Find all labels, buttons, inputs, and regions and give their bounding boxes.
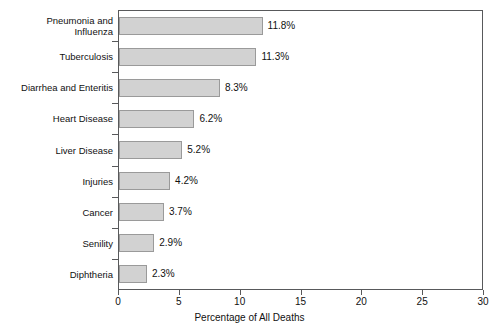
y-axis-tick: [112, 228, 118, 229]
y-axis-category-label: Diarrhea and Enteritis: [1, 82, 113, 93]
bar-value-label: 2.3%: [152, 265, 175, 283]
bar-chart: Pneumonia and InfluenzaTuberculosisDiarr…: [0, 0, 499, 331]
x-axis-tick: [422, 290, 423, 295]
y-axis-category-labels: Pneumonia and InfluenzaTuberculosisDiarr…: [0, 10, 113, 290]
bar: [119, 110, 194, 128]
y-axis-tick: [112, 103, 118, 104]
x-axis-tick-label: 10: [220, 296, 260, 307]
bar-series: 11.8%11.3%8.3%6.2%5.2%4.2%3.7%2.9%2.3%: [119, 11, 482, 289]
x-axis-tick: [179, 290, 180, 295]
y-axis-tick: [112, 166, 118, 167]
y-axis-tick: [112, 41, 118, 42]
x-axis-tick-label: 30: [463, 296, 499, 307]
bar: [119, 79, 220, 97]
x-axis-ticks: 051015202530: [0, 290, 499, 298]
bar-value-label: 8.3%: [225, 79, 248, 97]
bar: [119, 265, 147, 283]
bar: [119, 48, 256, 66]
y-axis-category-label: Liver Disease: [1, 145, 113, 156]
bar-value-label: 2.9%: [159, 234, 182, 252]
y-axis-tick: [112, 134, 118, 135]
y-axis-category-label: Pneumonia and Influenza: [1, 15, 113, 37]
bar: [119, 172, 170, 190]
y-axis-category-label: Diphtheria: [1, 269, 113, 280]
y-axis-tick: [112, 72, 118, 73]
x-axis-tick-label: 20: [341, 296, 381, 307]
x-axis-tick-label: 25: [402, 296, 442, 307]
bar-value-label: 4.2%: [175, 172, 198, 190]
bar: [119, 203, 164, 221]
bar-value-label: 3.7%: [169, 203, 192, 221]
y-axis-category-label: Cancer: [1, 207, 113, 218]
x-axis-tick: [483, 290, 484, 295]
bar: [119, 234, 154, 252]
x-axis-tick-label: 15: [281, 296, 321, 307]
bar-value-label: 5.2%: [187, 141, 210, 159]
y-axis-tick: [112, 259, 118, 260]
y-axis-category-label: Injuries: [1, 176, 113, 187]
bar: [119, 17, 263, 35]
chart-title: [0, 0, 499, 4]
x-axis-tick-label: 0: [98, 296, 138, 307]
bar-value-label: 11.3%: [261, 48, 289, 66]
y-axis-category-label: Heart Disease: [1, 113, 113, 124]
y-axis-category-label: Senility: [1, 238, 113, 249]
bar-value-label: 6.2%: [199, 110, 222, 128]
x-axis-tick-label: 5: [159, 296, 199, 307]
y-axis-category-label: Tuberculosis: [1, 51, 113, 62]
bar-value-label: 11.8%: [268, 17, 296, 35]
x-axis-title: Percentage of All Deaths: [0, 312, 499, 323]
bar: [119, 141, 182, 159]
y-axis-tick: [112, 197, 118, 198]
x-axis-tick: [361, 290, 362, 295]
x-axis-tick: [301, 290, 302, 295]
x-axis-tick: [118, 290, 119, 295]
x-axis-tick: [240, 290, 241, 295]
